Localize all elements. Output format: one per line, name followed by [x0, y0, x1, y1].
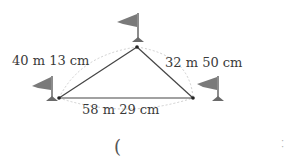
triangle-diagram: 40 m 13 cm 32 m 50 cm 58 m 29 cm ( ··	[0, 0, 284, 164]
answer-open-paren: (	[114, 136, 121, 157]
triangle-svg	[0, 0, 284, 164]
left-flag-icon	[32, 76, 58, 101]
left-side-label: 40 m 13 cm	[12, 53, 89, 68]
top-flag-icon	[117, 13, 144, 42]
bottom-side-label: 58 m 29 cm	[82, 102, 159, 117]
left-vertex	[57, 96, 61, 100]
right-flag-icon	[197, 76, 224, 101]
top-vertex	[135, 45, 139, 49]
right-side-label: 32 m 50 cm	[165, 55, 242, 70]
edge-dots: ··	[281, 138, 284, 150]
right-vertex	[191, 96, 195, 100]
